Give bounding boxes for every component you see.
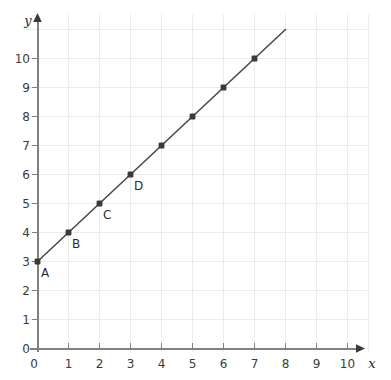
- point-label-d: D: [134, 179, 143, 193]
- point-label-b: B: [72, 237, 80, 251]
- y-axis-label: y: [23, 13, 32, 28]
- x-tick-label-1: 1: [65, 357, 73, 371]
- y-tick-label-4: 4: [22, 226, 30, 240]
- coordinate-plane-figure: 0 1 2 3 4 5 6 7 8 9 10 0 1 2 3 4 5 6 7 8…: [0, 0, 391, 380]
- x-tick-label-8: 8: [282, 357, 290, 371]
- y-tick-label-0: 0: [22, 342, 30, 356]
- x-tick-label-7: 7: [251, 357, 259, 371]
- data-point-marker: [252, 56, 258, 62]
- x-tick-label-5: 5: [189, 357, 197, 371]
- x-tick-label-0: 0: [30, 357, 38, 371]
- data-point-marker: [35, 259, 41, 265]
- data-point-marker: [159, 143, 165, 149]
- x-tick-label-10: 10: [340, 357, 355, 371]
- y-tick-label-6: 6: [22, 168, 30, 182]
- y-tick-label-1: 1: [22, 313, 30, 327]
- x-tick-label-2: 2: [96, 357, 104, 371]
- x-tick-label-4: 4: [158, 357, 166, 371]
- y-tick-label-5: 5: [22, 197, 30, 211]
- x-tick-label-3: 3: [127, 357, 135, 371]
- line-graph-svg: 0 1 2 3 4 5 6 7 8 9 10 0 1 2 3 4 5 6 7 8…: [0, 0, 391, 380]
- data-point-marker: [221, 85, 227, 91]
- y-tick-label-7: 7: [22, 139, 30, 153]
- x-axis-label: x: [368, 356, 376, 371]
- y-tick-label-3: 3: [22, 255, 30, 269]
- x-tick-label-6: 6: [220, 357, 228, 371]
- point-label-c: C: [103, 208, 111, 222]
- y-tick-label-10: 10: [15, 52, 30, 66]
- data-point-marker: [190, 114, 196, 120]
- chart-background: [0, 0, 391, 380]
- y-tick-label-8: 8: [22, 110, 30, 124]
- data-point-marker: [128, 172, 134, 178]
- y-tick-label-2: 2: [22, 284, 30, 298]
- x-tick-label-9: 9: [313, 357, 321, 371]
- data-point-marker: [97, 201, 103, 207]
- point-label-a: A: [41, 266, 50, 280]
- data-point-marker: [66, 230, 72, 236]
- y-tick-label-9: 9: [22, 81, 30, 95]
